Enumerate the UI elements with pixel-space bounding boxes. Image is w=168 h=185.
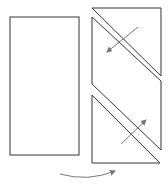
bottom-triangle-piece [92, 95, 160, 163]
transform-curved-arrow-icon [60, 171, 115, 177]
original-rectangle [10, 17, 79, 155]
dissection-diagram [0, 0, 168, 185]
top-triangle-piece [92, 8, 161, 76]
